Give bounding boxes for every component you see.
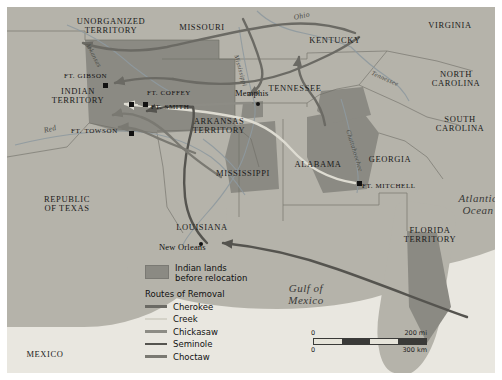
legend-route-label-creek: Creek [173,314,198,324]
legend-route-creek: Creek [145,314,257,324]
legend-area-swatch [145,265,169,279]
legend-route-line-seminole [145,343,167,346]
legend-route-label-cherokee: Cherokee [173,302,213,312]
fort-marker-ft-mitchell [357,181,362,186]
route-cherokee-tail [115,78,173,83]
legend-route-line-chickasaw [145,330,167,333]
route-cherokee-south [173,37,359,84]
route-creek [125,104,355,183]
city-marker-memphis [256,102,260,106]
map-legend: Indian lands before relocation Routes of… [145,264,257,364]
legend-route-line-choctaw [145,355,167,358]
route-chickasaw [139,103,251,105]
scale-km-max: 300 km [402,346,427,354]
legend-route-cherokee: Cherokee [145,302,257,312]
scale-km-zero: 0 [311,346,315,354]
map-plate: UNORGANIZED TERRITORYMISSOURIVIRGINIAKEN… [7,7,495,373]
legend-routes-title: Routes of Removal [145,289,257,299]
scale-km-numbers: 0 300 km [311,346,427,354]
legend-area-entry: Indian lands before relocation [145,264,257,284]
fort-marker-ft-coffey [143,102,148,107]
scale-bar-graphic [313,338,427,345]
indian-removal-map: UNORGANIZED TERRITORYMISSOURIVIRGINIAKEN… [0,0,502,380]
legend-route-choctaw: Choctaw [145,352,257,362]
route-seminole-gulf [223,243,467,317]
route-choctaw [113,114,221,177]
fort-marker-ft-gibson [103,83,108,88]
legend-route-label-choctaw: Choctaw [173,352,210,362]
legend-route-line-cherokee [145,305,167,308]
city-marker-new-orleans [199,242,203,246]
legend-route-chickasaw: Chickasaw [145,327,257,337]
legend-route-label-seminole: Seminole [173,339,212,349]
legend-route-seminole: Seminole [145,339,257,349]
route-cherokee-west [83,24,355,51]
scale-miles-max: 200 mi [404,329,427,337]
legend-route-list: CherokeeCreekChickasawSeminoleChoctaw [145,302,257,362]
legend-area-label: Indian lands before relocation [175,264,247,284]
legend-route-label-chickasaw: Chickasaw [173,327,218,337]
scale-bar: 0 200 mi 0 300 km [313,329,431,354]
route-seminole-river [184,107,207,243]
fort-marker-ft-smith [129,102,134,107]
legend-route-line-creek [145,318,167,321]
scale-miles-numbers: 0 200 mi [311,329,427,337]
fort-marker-ft-towson [129,131,134,136]
scale-miles-zero: 0 [311,329,315,337]
